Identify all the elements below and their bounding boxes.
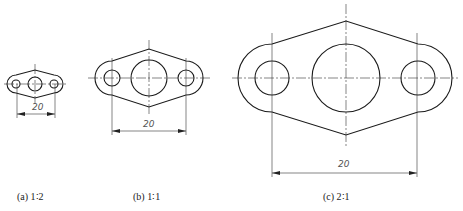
dimension-value: 20 (338, 159, 350, 169)
dimension-value: 20 (143, 119, 155, 129)
dimension-value: 20 (32, 102, 44, 112)
figure-b-scale-1-1: 20 (b) 1∶1 (88, 40, 210, 203)
figure-a-scale-1-2: 20 (a) 1∶2 (4, 64, 66, 203)
figure-c-scale-2-1: 20 (c) 2∶1 (232, 4, 458, 203)
scale-comparison-diagram: 20 (a) 1∶2 20 (b) 1∶1 20 (c) 2∶1 (0, 0, 463, 211)
figure-caption: (c) 2∶1 (323, 191, 350, 203)
figure-caption: (b) 1∶1 (133, 191, 160, 203)
figure-caption: (a) 1∶2 (17, 191, 44, 203)
